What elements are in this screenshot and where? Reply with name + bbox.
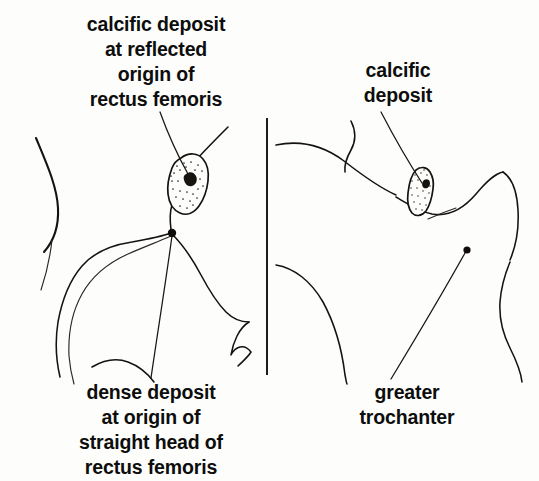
calcific-deposit-blob-right [408, 168, 434, 216]
greater-trochanter-node [463, 246, 470, 253]
iliac-contour [36, 138, 58, 252]
anatomical-figure: calcific deposit at reflected origin of … [0, 0, 539, 481]
left-panel-linework [36, 112, 251, 384]
leader-right-bottom [391, 253, 465, 379]
trochanteric-contour [172, 234, 249, 322]
femoral-shaft-contour [92, 360, 154, 382]
medial-femoral-shaft [276, 265, 347, 384]
label-calcific-deposit: calcific deposit [318, 58, 478, 108]
leader-left-bottom [151, 236, 172, 378]
greater-trochanter-crest [503, 172, 518, 260]
lateral-femoral-shaft [500, 262, 522, 382]
ilium-margin-right [276, 143, 396, 195]
lesser-trochanter-notch [231, 322, 251, 366]
label-calcific-deposit-reflected-origin: calcific deposit at reflected origin of … [36, 12, 276, 112]
aiis-notch [345, 121, 355, 172]
right-panel-linework [276, 112, 522, 384]
label-dense-deposit-straight-head: dense deposit at origin of straight head… [30, 380, 272, 480]
label-greater-trochanter: greater trochanter [322, 380, 492, 430]
leader-right-top [381, 112, 422, 183]
femoral-cortex-contour [69, 236, 171, 384]
